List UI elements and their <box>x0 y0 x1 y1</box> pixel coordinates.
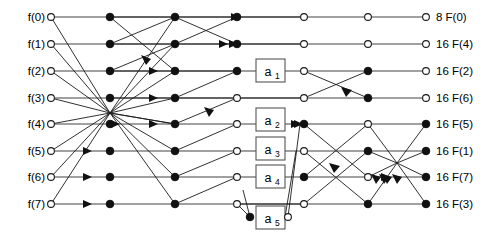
box-subscript-a3: 3 <box>275 149 280 159</box>
arrow-s4-cross-top <box>341 87 352 97</box>
edge-s1-r3-hub <box>51 98 110 113</box>
node-s4-4 <box>300 120 308 128</box>
node-in-2 <box>48 68 55 75</box>
node-s5-7 <box>364 200 372 208</box>
node-s3-1 <box>233 40 241 48</box>
input-label-f4: f(4) <box>28 118 45 130</box>
stage-4-top-edges <box>304 71 368 98</box>
output-label-F0: 8 F(0) <box>436 11 467 23</box>
edge-hub2-out-r6 <box>397 163 426 177</box>
flow-diagram-svg: f(0) f(1) f(2) f(3) f(4) f(5) f(6) f(7) <box>0 0 494 244</box>
edge-hub-s2-r3 <box>110 98 175 113</box>
nodes-stage-2 <box>171 13 179 208</box>
box-subscript-a5: 5 <box>275 218 280 228</box>
multiplier-box-a1[interactable]: a 1 <box>256 59 285 82</box>
node-s4-5 <box>301 148 308 155</box>
input-label-f7: f(7) <box>28 198 45 210</box>
box-label-a5: a <box>265 212 272 226</box>
node-s5-5 <box>364 147 372 155</box>
stage-1-arrowheads <box>83 120 120 208</box>
edge-cross-r1-r0 <box>110 17 175 44</box>
node-s1-7 <box>106 200 114 208</box>
node-s1-6 <box>106 173 114 181</box>
arrow-in-r7 <box>83 200 92 208</box>
edge-hub2-out-r7 <box>397 163 426 204</box>
edge-a5-up-right-2 <box>288 124 300 217</box>
node-s4-6 <box>300 173 308 181</box>
edge-s1-r2-hub <box>51 71 110 113</box>
nodes-stage-0 <box>48 14 55 208</box>
arrow-hub2-diag-2 <box>392 174 402 184</box>
arrow-hub2-diag-4 <box>371 174 381 184</box>
node-in-0 <box>48 14 55 21</box>
node-s5-0 <box>365 14 372 21</box>
node-s4-0 <box>301 14 308 21</box>
node-s5-3 <box>364 94 372 102</box>
input-label-f2: f(2) <box>28 65 45 77</box>
node-a5-in <box>246 213 254 221</box>
arrow-s2-r2 <box>149 67 158 75</box>
edge-a5-up-right <box>285 151 296 217</box>
node-s2-0 <box>171 13 179 21</box>
node-s2-5 <box>171 147 179 155</box>
node-in-7 <box>48 201 55 208</box>
node-s4-3 <box>301 95 308 102</box>
output-label-F3: 16 F(3) <box>436 198 473 210</box>
node-s5-2 <box>364 67 372 75</box>
edge-cross-s2r7-s3r6 <box>175 177 237 204</box>
output-label-F2: 16 F(2) <box>436 65 473 77</box>
node-s1-1 <box>106 40 114 48</box>
node-s3-5 <box>234 148 241 155</box>
node-out-2 <box>423 68 430 75</box>
multiplier-box-a3[interactable]: a 3 <box>256 137 285 160</box>
node-s2-1 <box>171 40 179 48</box>
node-s3-2 <box>233 67 241 75</box>
multiplier-box-a5[interactable]: a 5 <box>256 206 285 229</box>
output-label-group: 8 F(0) 16 F(4) 16 F(2) 16 F(6) 16 F(5) 1… <box>436 11 473 210</box>
node-out-5 <box>422 147 430 155</box>
output-label-F4: 16 F(4) <box>436 38 473 50</box>
edge-hub-s2-r2 <box>110 71 175 113</box>
node-s2-3 <box>171 94 179 102</box>
edge-hub-s2-r7 <box>110 113 175 204</box>
node-a5-out <box>285 214 292 221</box>
node-s4-7 <box>301 201 308 208</box>
node-in-3 <box>48 95 55 102</box>
box-label-a2: a <box>265 114 272 128</box>
stage-4-bottom-edges <box>304 124 368 204</box>
multiplier-box-a4[interactable]: a 4 <box>256 165 285 188</box>
node-in-4 <box>48 121 55 128</box>
node-out-7 <box>422 200 430 208</box>
node-s5-4 <box>365 121 372 128</box>
node-in-6 <box>48 174 55 181</box>
node-s1-2 <box>106 67 114 75</box>
node-s5-6 <box>365 174 372 181</box>
input-label-f0: f(0) <box>28 11 45 23</box>
box-label-a1: a <box>265 65 272 79</box>
node-s4-2 <box>301 68 308 75</box>
input-label-f5: f(5) <box>28 145 45 157</box>
node-in-5 <box>48 148 55 155</box>
stage-5-edges <box>368 124 426 204</box>
arrow-in-r6 <box>83 173 92 181</box>
edge-s1-r1-hub <box>51 44 110 113</box>
signal-flow-graph-figure: f(0) f(1) f(2) f(3) f(4) f(5) f(6) f(7) <box>0 0 494 244</box>
box-subscript-a2: 2 <box>275 120 280 130</box>
node-s2-2 <box>171 67 179 75</box>
node-out-1 <box>423 41 430 48</box>
input-label-f3: f(3) <box>28 92 45 104</box>
edge-s1-r7-hub <box>51 113 110 204</box>
node-out-6 <box>422 173 430 181</box>
node-s3-3 <box>234 95 241 102</box>
node-s1-5 <box>106 147 114 155</box>
node-s2-7 <box>171 200 179 208</box>
multiplier-box-a2[interactable]: a 2 <box>256 108 285 131</box>
input-label-f1: f(1) <box>28 38 45 50</box>
box-subscript-a4: 4 <box>275 177 280 187</box>
arrow-s4-cross-bottom <box>329 163 340 173</box>
output-label-F1: 16 F(1) <box>436 145 473 157</box>
output-label-F5: 16 F(5) <box>436 118 473 130</box>
node-s2-4 <box>171 120 179 128</box>
box-label-a4: a <box>265 171 272 185</box>
node-out-0 <box>423 14 430 21</box>
